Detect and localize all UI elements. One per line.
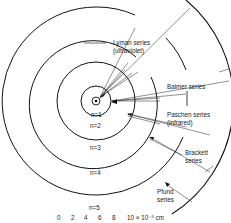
orbit-label-n4: n=4 [90,169,101,176]
orbit-label-n3: n=3 [90,144,101,151]
brackett-label: Brackett [185,149,208,156]
brackett-note: series [185,157,202,164]
paschen-note: (infrared) [167,119,193,127]
orbit-n5 [172,0,231,214]
lyman-note: (ultraviolet) [113,47,144,55]
orbit-label-n1: n=1 [91,111,102,118]
scale-unit: 10 × 10⁻⁸ cm [127,214,164,221]
svg-text:2: 2 [71,214,75,221]
svg-text:4: 4 [84,214,88,221]
bohr-model-diagram: n=1 n=2 n=3 n=4 n=5 Lyman series (ultrav… [0,0,231,223]
pfund-label: Pfund [157,188,174,195]
scale-bar: 0 2 4 6 8 10 × 10⁻⁸ cm [57,214,164,221]
orbit-label-n2: n=2 [90,122,101,129]
lyman-label: Lyman series [113,39,150,47]
pfund-note: series [157,196,174,203]
svg-text:6: 6 [98,214,102,221]
balmer-label: Balmer series [167,83,206,90]
svg-text:8: 8 [112,214,116,221]
paschen-label: Paschen series [167,111,210,118]
nucleus-icon [95,100,98,103]
svg-text:0: 0 [57,214,61,221]
orbit-label-n5: n=5 [89,204,100,211]
